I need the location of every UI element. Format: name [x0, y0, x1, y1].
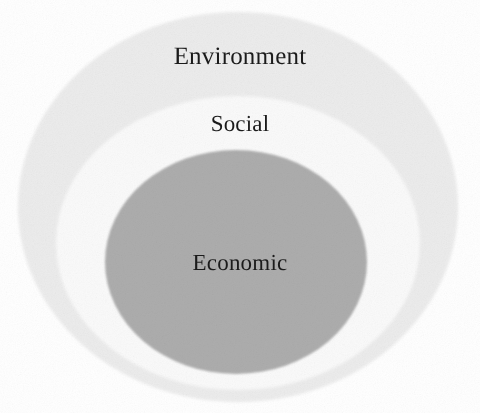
ring-label-economic: Economic	[0, 251, 480, 274]
sustainability-nested-ellipses-diagram: Environment Social Economic	[0, 0, 480, 413]
ring-label-social: Social	[0, 112, 480, 135]
ring-label-environment: Environment	[0, 44, 480, 69]
